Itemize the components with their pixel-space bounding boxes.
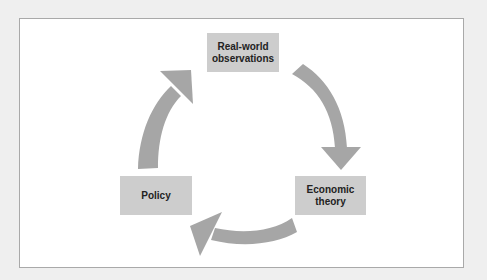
node-label-line2: theory	[315, 196, 346, 208]
node-real-world-observations: Real-world observations	[207, 33, 279, 72]
arrow-observations-to-theory-icon	[292, 64, 361, 170]
arrow-policy-to-observations-icon	[138, 70, 193, 169]
node-label-line1: Real-world	[217, 41, 268, 53]
node-label-line1: Economic	[307, 184, 355, 196]
node-label-line2: observations	[212, 53, 274, 65]
node-label: Policy	[141, 190, 170, 202]
node-policy: Policy	[120, 176, 192, 215]
arrow-theory-to-policy-icon	[190, 212, 297, 256]
node-economic-theory: Economic theory	[295, 176, 366, 215]
